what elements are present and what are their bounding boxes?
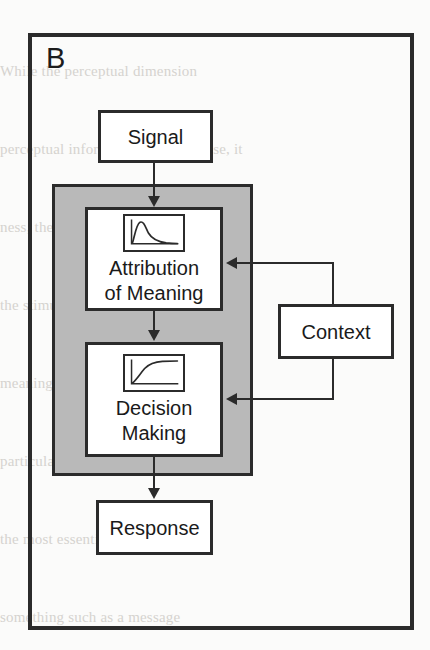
decision-sigmoid-plot-icon	[123, 354, 185, 392]
node-decision-label-line2: Making	[122, 420, 186, 445]
node-attribution-label-line1: Attribution	[109, 255, 199, 280]
arrowhead-attribution-to-decision	[148, 330, 160, 341]
attribution-peak-decay-plot-icon	[123, 214, 185, 252]
connector-context-up	[332, 262, 334, 306]
panel-label-b: B	[46, 44, 65, 73]
node-signal-label: Signal	[128, 124, 184, 149]
node-response[interactable]: Response	[96, 500, 213, 555]
node-decision-making[interactable]: Decision Making	[85, 342, 223, 457]
connector-signal-to-attribution	[153, 163, 155, 199]
node-attribution-label-line2: of Meaning	[105, 280, 204, 305]
arrowhead-decision-to-response	[148, 488, 160, 499]
connector-context-to-decision	[236, 398, 334, 400]
node-context[interactable]: Context	[278, 304, 394, 359]
node-response-label: Response	[109, 515, 199, 540]
connector-context-down	[332, 356, 334, 400]
arrowhead-context-to-attribution	[226, 257, 237, 269]
node-signal[interactable]: Signal	[98, 110, 213, 163]
scanned-page: While the perceptual dimension perceptua…	[0, 0, 430, 650]
node-attribution-of-meaning[interactable]: Attribution of Meaning	[85, 207, 223, 311]
node-context-label: Context	[302, 319, 371, 344]
arrowhead-context-to-decision	[226, 393, 237, 405]
node-decision-label-line1: Decision	[116, 395, 193, 420]
arrowhead-signal-to-attribution	[148, 196, 160, 207]
connector-context-to-attribution	[236, 262, 334, 264]
connector-decision-to-response	[153, 457, 155, 490]
